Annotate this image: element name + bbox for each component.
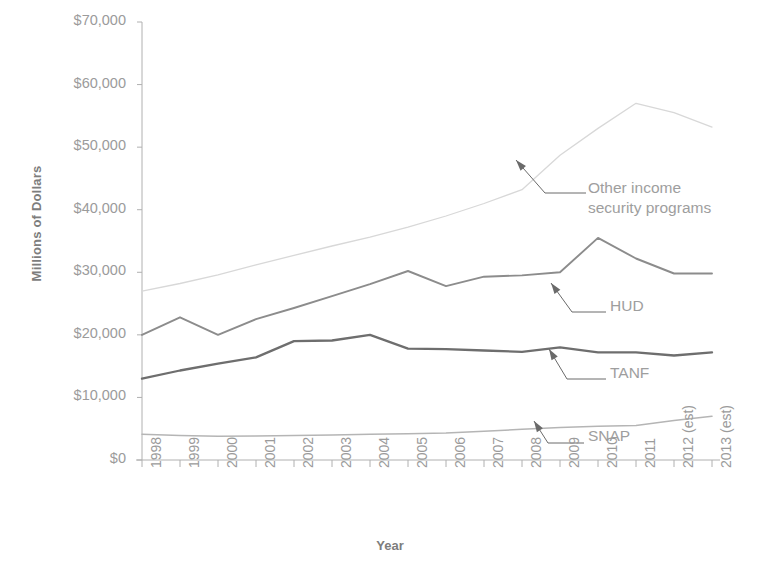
x-tick-label: 2009 [566,378,582,468]
x-tick-label: 2013 (est) [718,378,734,468]
x-tick-label: 2010 [604,378,620,468]
line-chart: Millions of Dollars Year $0$10,000$20,00… [0,0,769,567]
annotation-other-income-security-programs: Other income security programs [588,178,711,218]
x-tick-label: 2006 [452,378,468,468]
x-tick-label: 2002 [300,378,316,468]
annotation-other-line-1: Other income [588,178,711,198]
x-tick-label: 2004 [376,378,392,468]
x-tick-label: 2012 (est) [680,378,696,468]
x-tick-label: 1999 [186,378,202,468]
x-tick-label: 2008 [528,378,544,468]
annotation-hud: HUD [610,296,644,316]
x-tick-label: 2007 [490,378,506,468]
x-tick-label: 2011 [642,378,658,468]
x-axis-tick-labels: 1998199920002001200220032004200520062007… [0,0,769,567]
x-tick-label: 2005 [414,378,430,468]
annotation-other-line-2: security programs [588,198,711,218]
annotation-snap: SNAP [588,426,630,446]
x-tick-label: 1998 [148,378,164,468]
x-tick-label: 2001 [262,378,278,468]
annotation-tanf: TANF [610,363,649,383]
x-tick-label: 2003 [338,378,354,468]
x-tick-label: 2000 [224,378,240,468]
